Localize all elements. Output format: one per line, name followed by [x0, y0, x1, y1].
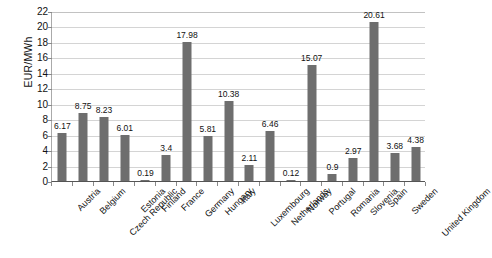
y-axis-tick-labels: 0246810121416182022: [22, 12, 48, 182]
bar[interactable]: [245, 165, 254, 181]
bar-value-label: 2.11: [241, 154, 257, 163]
bar-slot[interactable]: 0.12: [281, 12, 302, 181]
bar[interactable]: [141, 180, 150, 181]
bar-value-label: 0.9: [327, 163, 339, 172]
bar-slot[interactable]: 6.46: [260, 12, 281, 181]
bar-slot[interactable]: 5.81: [197, 12, 218, 181]
bar-slot[interactable]: 3.68: [384, 12, 405, 181]
bar-slot[interactable]: 4.38: [405, 12, 426, 181]
bar-value-label: 2.97: [345, 147, 362, 156]
bar-slot[interactable]: 15.07: [301, 12, 322, 181]
y-tick-label: 14: [37, 69, 48, 79]
bar-value-label: 8.23: [96, 106, 113, 115]
y-tick-label: 16: [37, 53, 48, 63]
bar-slot[interactable]: 2.11: [239, 12, 260, 181]
bar-slot[interactable]: 0.9: [322, 12, 343, 181]
bar-value-label: 15.07: [301, 54, 322, 63]
bar-slot[interactable]: 3.4: [156, 12, 177, 181]
bar-slot[interactable]: 6.17: [52, 12, 73, 181]
bar[interactable]: [328, 174, 337, 181]
y-tick-label: 12: [37, 84, 48, 94]
bar[interactable]: [99, 117, 108, 181]
bar[interactable]: [58, 133, 67, 181]
bar[interactable]: [203, 136, 212, 181]
y-tick-label: 20: [37, 22, 48, 32]
bar-slot[interactable]: 17.98: [177, 12, 198, 181]
x-axis-label: Sweden: [409, 186, 439, 216]
x-axis-label: United Kingdom: [439, 186, 491, 238]
x-axis-category-labels: AustriaBelgiumCzech RepublicEstoniaFinla…: [51, 186, 425, 258]
bar-value-label: 3.4: [160, 144, 172, 153]
bar-slot[interactable]: 8.23: [94, 12, 115, 181]
y-tick-label: 18: [37, 38, 48, 48]
bar-value-label: 5.81: [200, 125, 217, 134]
bar[interactable]: [307, 65, 316, 181]
bar[interactable]: [79, 113, 88, 181]
y-tick-label: 10: [37, 100, 48, 110]
bar-value-label: 20.61: [363, 11, 384, 20]
x-axis-label: Belgium: [98, 186, 128, 216]
bar-value-label: 0.12: [283, 169, 300, 178]
bar[interactable]: [266, 131, 275, 181]
bars-layer: 6.178.758.236.010.193.417.985.8110.382.1…: [52, 12, 425, 181]
bar-slot[interactable]: 0.19: [135, 12, 156, 181]
plot-area: 6.178.758.236.010.193.417.985.8110.382.1…: [51, 12, 425, 182]
bar-value-label: 0.19: [137, 169, 154, 178]
bar-slot[interactable]: 2.97: [343, 12, 364, 181]
y-tick-label: 22: [37, 7, 48, 17]
bar[interactable]: [349, 158, 358, 181]
bar[interactable]: [390, 153, 399, 181]
bar[interactable]: [162, 155, 171, 181]
bar-value-label: 6.17: [54, 122, 71, 131]
bar[interactable]: [183, 42, 192, 181]
bar[interactable]: [224, 101, 233, 181]
x-tick-mark: [425, 182, 426, 186]
bar-slot[interactable]: 6.01: [114, 12, 135, 181]
bar[interactable]: [411, 147, 420, 181]
bar-slot[interactable]: 20.61: [364, 12, 385, 181]
bar-value-label: 6.46: [262, 120, 279, 129]
bar-value-label: 3.68: [387, 142, 404, 151]
bar-value-label: 10.38: [218, 90, 239, 99]
bar[interactable]: [120, 135, 129, 181]
bar-value-label: 17.98: [176, 31, 197, 40]
bar[interactable]: [286, 180, 295, 181]
bar-value-label: 6.01: [116, 124, 133, 133]
bar[interactable]: [370, 22, 379, 181]
bar-value-label: 4.38: [407, 136, 424, 145]
bar-slot[interactable]: 10.38: [218, 12, 239, 181]
bar-slot[interactable]: 8.75: [73, 12, 94, 181]
bar-value-label: 8.75: [75, 102, 92, 111]
